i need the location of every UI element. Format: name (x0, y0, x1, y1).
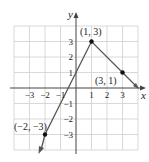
point-neg2-neg3 (43, 132, 47, 136)
svg-text:−3: −3 (63, 130, 73, 140)
svg-text:2: 2 (69, 52, 74, 62)
point-1-3 (89, 39, 93, 43)
svg-text:3: 3 (120, 90, 125, 100)
label-1-3: (1, 3) (80, 26, 102, 38)
x-ticks: −3 −2 −1 1 2 3 (25, 90, 126, 100)
svg-text:1: 1 (89, 90, 94, 100)
y-axis-arrow-icon (74, 12, 79, 18)
point-3-1 (120, 70, 124, 74)
svg-text:1: 1 (69, 68, 74, 78)
label-3-1: (3, 1) (95, 75, 117, 87)
y-axis-label: y (67, 8, 73, 20)
x-axis-label: x (140, 89, 146, 101)
svg-text:−2: −2 (63, 114, 73, 124)
svg-text:−2: −2 (40, 90, 50, 100)
graph: y x (1, 3) (3, 1) (−2, −3) −3 −2 −1 1 2 … (0, 0, 149, 162)
svg-text:3: 3 (69, 37, 74, 47)
label-neg2-neg3: (−2, −3) (14, 121, 47, 133)
axes (10, 14, 144, 154)
svg-text:2: 2 (105, 90, 110, 100)
svg-text:−1: −1 (63, 99, 73, 109)
svg-text:−3: −3 (25, 90, 35, 100)
